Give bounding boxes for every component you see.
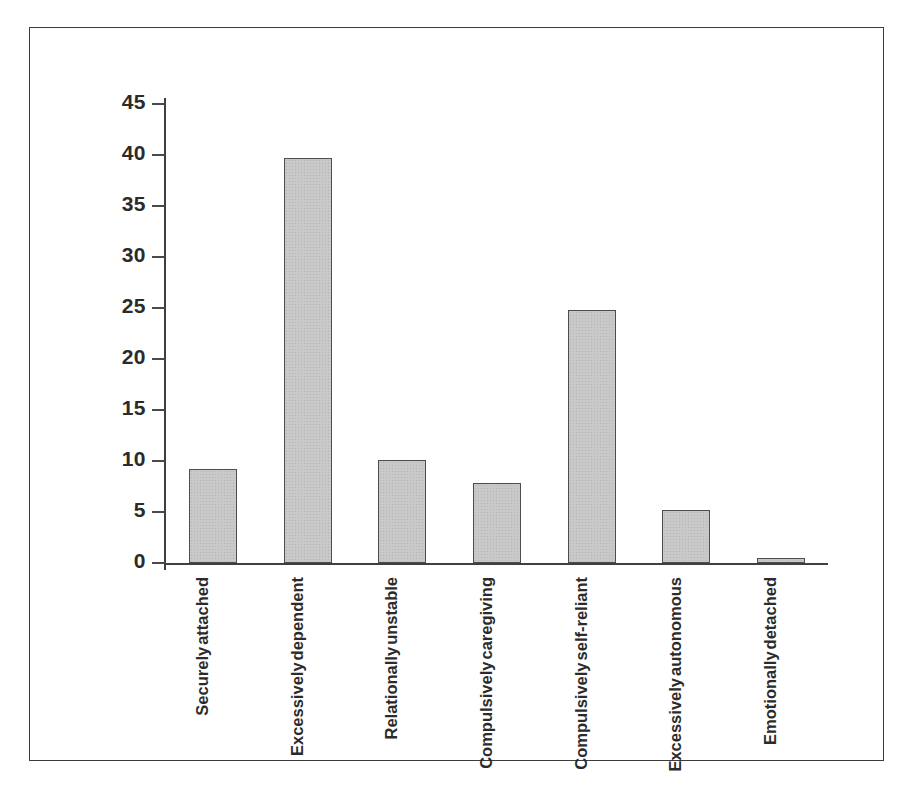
y-axis-tick-label-25: 25 xyxy=(90,294,146,318)
bar-2[interactable] xyxy=(284,158,332,563)
y-axis-tick-label-20: 20 xyxy=(90,345,146,369)
plot-area: 051015202530354045 SecurelyattachedExces… xyxy=(30,28,885,762)
y-axis-tick-40 xyxy=(152,154,165,156)
x-axis-label-7-line-1: Emotionally xyxy=(761,651,780,745)
y-axis-tick-label-40: 40 xyxy=(90,141,146,165)
x-axis-label-6-line-2: autonomous xyxy=(666,577,685,676)
y-axis-tick-label-35: 35 xyxy=(90,192,146,216)
x-axis-label-3-line-1: Relationally xyxy=(382,647,401,740)
x-axis-label-2-line-2: dependent xyxy=(288,577,307,660)
bar-1[interactable] xyxy=(189,469,237,563)
x-axis-label-4-line-1: Compulsively xyxy=(477,662,496,769)
y-axis-tick-label-15: 15 xyxy=(90,396,146,420)
y-axis-tick-label-10: 10 xyxy=(90,447,146,471)
figure-frame: 051015202530354045 SecurelyattachedExces… xyxy=(29,27,884,761)
x-axis-label-6-line-1: Excessively xyxy=(666,678,685,772)
x-axis-label-1-line-2: attached xyxy=(193,577,212,645)
y-axis-tick-label-0: 0 xyxy=(90,549,146,573)
bar-7[interactable] xyxy=(757,558,805,563)
x-axis-label-5-line-2: self-reliant xyxy=(572,577,591,660)
y-axis-tick-0 xyxy=(152,562,165,564)
x-axis-label-4-line-2: caregiving xyxy=(477,577,496,660)
bar-3[interactable] xyxy=(378,460,426,563)
x-axis-label-2-line-1: Excessively xyxy=(288,662,307,756)
x-axis-label-3-line-2: unstable xyxy=(382,577,401,645)
y-axis-tick-15 xyxy=(152,409,165,411)
y-axis-tick-label-5: 5 xyxy=(90,498,146,522)
bar-4[interactable] xyxy=(473,483,521,563)
y-axis-tick-10 xyxy=(152,460,165,462)
y-axis-tick-5 xyxy=(152,511,165,513)
y-axis-line xyxy=(164,98,166,570)
x-axis-line xyxy=(164,563,828,565)
y-axis-tick-20 xyxy=(152,358,165,360)
y-axis-tick-label-45: 45 xyxy=(90,90,146,114)
y-axis-tick-30 xyxy=(152,256,165,258)
y-axis-tick-label-30: 30 xyxy=(90,243,146,267)
x-axis-label-1-line-1: Securely xyxy=(193,647,212,716)
y-axis-tick-35 xyxy=(152,205,165,207)
y-axis-tick-25 xyxy=(152,307,165,309)
x-axis-label-5-line-1: Compulsively xyxy=(572,662,591,769)
bar-5[interactable] xyxy=(568,310,616,563)
y-axis-tick-45 xyxy=(152,103,165,105)
x-axis-label-7-line-2: detached xyxy=(761,577,780,649)
bar-6[interactable] xyxy=(662,510,710,563)
